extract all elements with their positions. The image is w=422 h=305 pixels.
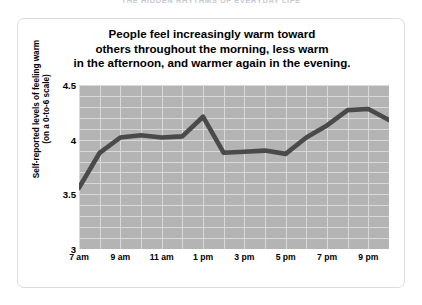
x-tick-label: 9 pm — [358, 252, 378, 262]
x-tick-label: 9 am — [111, 252, 131, 262]
x-tick-label: 11 am — [150, 252, 174, 262]
x-tick-label: 1 pm — [193, 252, 213, 262]
chart-title-line-1: People feel increasingly warm toward — [48, 27, 376, 42]
x-tick-label: 7 am — [69, 252, 89, 262]
plot-area — [79, 85, 389, 249]
data-line-series — [79, 85, 389, 249]
y-axis-tick-labels: 4.543.53 — [47, 85, 76, 249]
chart-title-line-2: others throughout the morning, less warm — [48, 42, 376, 57]
chart-title: People feel increasingly warm toward oth… — [48, 27, 376, 71]
figure-card: People feel increasingly warm toward oth… — [17, 18, 405, 288]
y-tick-label: 3.5 — [50, 189, 76, 200]
y-tick-label: 4 — [50, 134, 76, 145]
x-tick-label: 7 pm — [317, 252, 337, 262]
x-tick-label: 3 pm — [234, 252, 254, 262]
x-axis-tick-labels: 7 am9 am11 am1 pm3 pm5 pm7 pm9 pm — [79, 252, 389, 266]
y-tick-label: 4.5 — [50, 80, 76, 91]
x-tick-label: 5 pm — [276, 252, 296, 262]
y-axis-title-line-1: Self-reported levels of feeling warm — [32, 29, 42, 189]
page-running-head: THE HIDDEN RHYTHMS OF EVERYDAY LIFE — [0, 0, 422, 4]
series-polyline — [79, 109, 389, 188]
chart-title-line-3: in the afternoon, and warmer again in th… — [48, 56, 376, 71]
